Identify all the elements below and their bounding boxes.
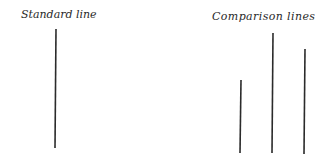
lines-figure [0,0,325,158]
standard-line [55,29,56,148]
comparison-line-b [272,33,273,153]
comparison-line-c [304,49,305,154]
comparison-line-a [240,80,241,153]
